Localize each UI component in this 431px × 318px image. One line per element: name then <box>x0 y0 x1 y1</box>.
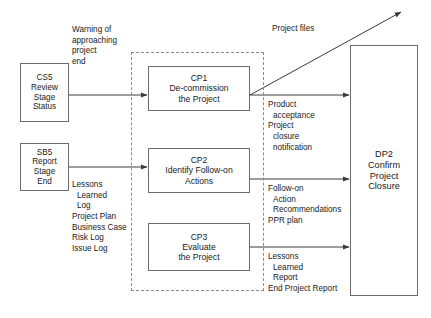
label-cp1-outputs-line1: Product <box>268 100 315 111</box>
label-cp1-outputs-line3: Project <box>268 121 315 132</box>
diagram-canvas: CS5 Review Stage Status SB5 Report Stage… <box>0 0 431 318</box>
node-cp2-line3: Actions <box>185 176 213 186</box>
node-cp1-decommission-the-project[interactable]: CP1 De-commission the Project <box>148 66 250 111</box>
node-dp2-line3: Project <box>370 171 399 182</box>
node-sb5-line1: SB5 <box>37 148 52 158</box>
label-cp1-outputs-line4: closure <box>268 132 315 143</box>
node-cs5-line1: CS5 <box>37 73 53 83</box>
node-dp2-confirm-project-closure[interactable]: DP2 Confirm Project Closure <box>350 45 418 296</box>
label-cp1-outputs-line5: notification <box>268 143 315 154</box>
label-project-files-text: Project files <box>272 24 314 35</box>
node-sb5-line3: Stage <box>34 167 55 177</box>
node-dp2-line1: DP2 <box>375 149 393 160</box>
label-project-files: Project files <box>272 24 314 35</box>
label-cp2-outputs-line2: Action <box>268 195 341 206</box>
node-cp2-line2: Identify Follow-on <box>165 165 232 175</box>
label-warning-line1: Warning of <box>72 25 117 36</box>
label-sb5-outputs-line1: Lessons <box>72 180 127 191</box>
label-cp2-outputs-line3: Recommendations <box>268 205 341 216</box>
label-cp2-outputs-line4: PPR plan <box>268 216 341 227</box>
label-cp1-outputs: Product acceptance Project closure notif… <box>268 100 315 153</box>
label-sb5-outputs-line3: Log <box>72 201 127 212</box>
node-dp2-line4: Closure <box>368 181 400 192</box>
label-cp3-outputs-line3: Report <box>268 273 337 284</box>
node-sb5-line2: Report <box>32 157 57 167</box>
node-cs5-review-stage-status[interactable]: CS5 Review Stage Status <box>20 63 69 122</box>
label-warning-line3: project <box>72 46 117 57</box>
node-cp3-line3: the Project <box>178 252 219 262</box>
label-cp3-outputs-line4: End Project Report <box>268 284 337 295</box>
node-sb5-line4: End <box>37 177 52 187</box>
label-sb5-outputs-line2: Learned <box>72 191 127 202</box>
node-cp2-line1: CP2 <box>191 155 208 165</box>
label-sb5-outputs-line5: Business Case <box>72 223 127 234</box>
label-sb5-outputs-line6: Risk Log <box>72 233 127 244</box>
label-sb5-outputs-line4: Project Plan <box>72 212 127 223</box>
label-sb5-outputs: Lessons Learned Log Project Plan Busines… <box>72 180 127 255</box>
label-cp2-outputs-line1: Follow-on <box>268 184 341 195</box>
label-cp2-outputs: Follow-on Action Recommendations PPR pla… <box>268 184 341 227</box>
node-cs5-line2: Review <box>31 83 58 93</box>
node-cp2-identify-follow-on-actions[interactable]: CP2 Identify Follow-on Actions <box>148 148 250 193</box>
label-warning-line2: approaching <box>72 36 117 47</box>
label-cp1-outputs-line2: acceptance <box>268 111 315 122</box>
label-cp3-outputs: Lessons Learned Report End Project Repor… <box>268 252 337 295</box>
label-warning-of-approaching-project-end: Warning of approaching project end <box>72 25 117 68</box>
node-dp2-line2: Confirm <box>368 160 400 171</box>
node-cp1-line3: the Project <box>178 94 219 104</box>
label-cp3-outputs-line2: Learned <box>268 263 337 274</box>
node-cs5-line3: Stage <box>34 93 55 103</box>
node-cp3-line2: Evaluate <box>182 242 215 252</box>
label-warning-line4: end <box>72 57 117 68</box>
label-sb5-outputs-line7: Issue Log <box>72 244 127 255</box>
label-cp3-outputs-line1: Lessons <box>268 252 337 263</box>
node-cs5-line4: Status <box>33 102 56 112</box>
node-cp1-line1: CP1 <box>191 73 208 83</box>
node-cp3-line1: CP3 <box>191 232 208 242</box>
node-sb5-report-stage-end[interactable]: SB5 Report Stage End <box>20 143 69 191</box>
node-cp3-evaluate-the-project[interactable]: CP3 Evaluate the Project <box>148 223 250 271</box>
node-cp1-line2: De-commission <box>169 83 228 93</box>
